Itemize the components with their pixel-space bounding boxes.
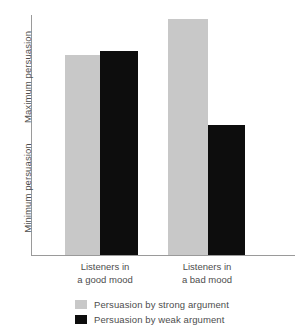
x-axis-category-bad-mood-line2: a bad mood [147,274,267,287]
legend-item-weak-argument: Persuasion by weak argument [75,313,229,326]
legend-item-strong-argument: Persuasion by strong argument [75,298,229,311]
x-axis-category-bad-mood: Listeners in a bad mood [147,261,267,286]
bar-bad-mood-weak-argument [208,125,245,255]
legend-swatch-strong-argument [75,300,87,309]
legend-label-strong-argument: Persuasion by strong argument [94,299,229,310]
chart-legend: Persuasion by strong argument Persuasion… [75,298,229,328]
legend-swatch-weak-argument [75,315,87,324]
bar-good-mood-weak-argument [100,51,138,255]
legend-label-weak-argument: Persuasion by weak argument [94,314,225,325]
bar-good-mood-strong-argument [65,55,100,255]
persuasion-bar-chart: Maximum persuasion Minimum persuasion Li… [0,0,301,330]
plot-area [0,0,301,256]
x-axis-category-bad-mood-line1: Listeners in [147,261,267,274]
bar-bad-mood-strong-argument [168,19,208,255]
